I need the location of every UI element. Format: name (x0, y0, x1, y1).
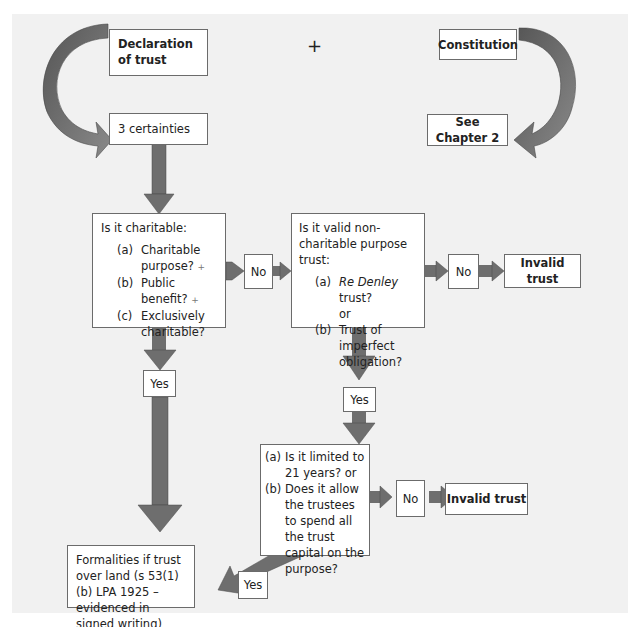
item-text: Exclusively charitable? (141, 308, 217, 340)
plus-marker: + (191, 295, 199, 305)
plus-marker: + (197, 262, 205, 272)
node-formalities: Formalities if trust over land (s 53(1)(… (67, 545, 195, 608)
non-charitable-item-b: (b) Trust of imperfect obligation? (315, 322, 417, 370)
label-yes: Yes (343, 387, 376, 412)
limited-item-a: (a) Is it limited to 21 years? or (265, 449, 365, 481)
item-text: or (339, 306, 351, 322)
node-see-chapter-2: See Chapter 2 (427, 114, 508, 146)
item-key: (b) (117, 275, 141, 308)
item-key: (a) (265, 449, 285, 481)
node-limited-or-spend-capital: (a) Is it limited to 21 years? or (b) Do… (260, 444, 370, 556)
charitable-item-b: (b) Public benefit? + (117, 275, 217, 308)
non-charitable-item-a: (a) Re Denley trust? (315, 274, 417, 306)
item-key: (b) (265, 481, 285, 577)
item-key: (c) (117, 308, 141, 340)
node-is-it-charitable: Is it charitable: (a) Charitable purpose… (92, 213, 226, 328)
curved-arrow-left (43, 24, 112, 158)
label-no: No (448, 254, 479, 289)
item-text: Trust of imperfect obligation? (339, 322, 417, 370)
item-key: (b) (315, 322, 339, 370)
charitable-item-c: (c) Exclusively charitable? (117, 308, 217, 340)
non-charitable-or: or (315, 306, 417, 322)
label-no: No (396, 480, 425, 517)
item-text: Is it limited to 21 years? or (285, 449, 365, 481)
item-text: Public benefit? (141, 276, 188, 306)
node-non-charitable-purpose-trust: Is it valid non-charitable purpose trust… (291, 213, 425, 328)
item-key: (a) (315, 274, 339, 306)
item-text: Does it allow the trustees to spend all … (285, 481, 365, 577)
charitable-title: Is it charitable: (101, 220, 217, 236)
limited-item-b: (b) Does it allow the trustees to spend … (265, 481, 365, 577)
charitable-item-a: (a) Charitable purpose? + (117, 242, 217, 275)
item-text: trust? (339, 291, 372, 305)
case-name: Re Denley (339, 275, 398, 289)
node-constitution: Constitution (439, 29, 517, 60)
plus-symbol: + (307, 35, 322, 56)
label-yes: Yes (238, 571, 268, 599)
item-key: (a) (117, 242, 141, 275)
label-no: No (244, 254, 273, 289)
label-yes: Yes (143, 370, 176, 397)
node-three-certainties: 3 certainties (109, 113, 208, 145)
non-charitable-title: Is it valid non-charitable purpose trust… (299, 220, 417, 268)
node-invalid-trust: Invalid trust (504, 254, 581, 288)
node-declaration-of-trust: Declaration of trust (109, 29, 208, 76)
node-invalid-trust: Invalid trust (445, 483, 528, 515)
item-text: Charitable purpose? (141, 243, 200, 273)
